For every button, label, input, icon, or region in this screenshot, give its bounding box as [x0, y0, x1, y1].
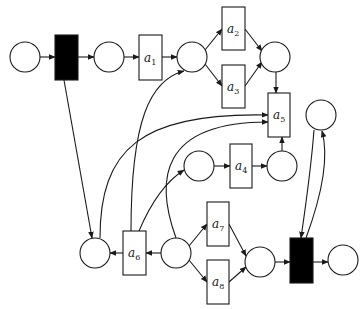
transition-a5: a5 [268, 93, 290, 137]
arc-a6-p3 [131, 71, 184, 231]
arc-p9-a7 [189, 224, 207, 246]
transition-a8: a8 [207, 260, 229, 304]
place-p11 [328, 245, 358, 275]
transition-a3: a3 [222, 65, 245, 108]
arc-a2-p4 [245, 29, 262, 51]
place-p2 [94, 42, 124, 72]
arc-p3-a3 [205, 64, 222, 86]
place-p3 [177, 42, 207, 72]
place-p6 [184, 151, 214, 181]
place-p5 [306, 100, 336, 130]
place-p1 [10, 42, 40, 72]
arc-start-p8 [64, 80, 92, 238]
arc-a8-p10 [229, 267, 246, 282]
arc-p9-a8 [189, 260, 207, 282]
transition-a4: a4 [230, 144, 252, 188]
arc-a7-p10 [229, 224, 246, 256]
arc-a6-p6 [139, 170, 184, 231]
place-p7 [267, 151, 297, 181]
arc-a3-p4 [245, 62, 262, 86]
transition-a6: a6 [123, 231, 146, 275]
transition-a2: a2 [222, 7, 245, 50]
petri-net-diagram: a1 a2 a3 a4 a5 a6 a7 a8 [0, 0, 364, 309]
place-p9 [161, 238, 191, 268]
arc-p3-a2 [205, 29, 222, 50]
silent-transition-start [55, 35, 78, 80]
place-p10 [245, 247, 275, 277]
silent-transition-end [290, 238, 313, 283]
place-p8 [80, 238, 110, 268]
transition-a1: a1 [139, 35, 162, 80]
place-p4 [260, 42, 290, 72]
transition-a7: a7 [207, 202, 229, 246]
